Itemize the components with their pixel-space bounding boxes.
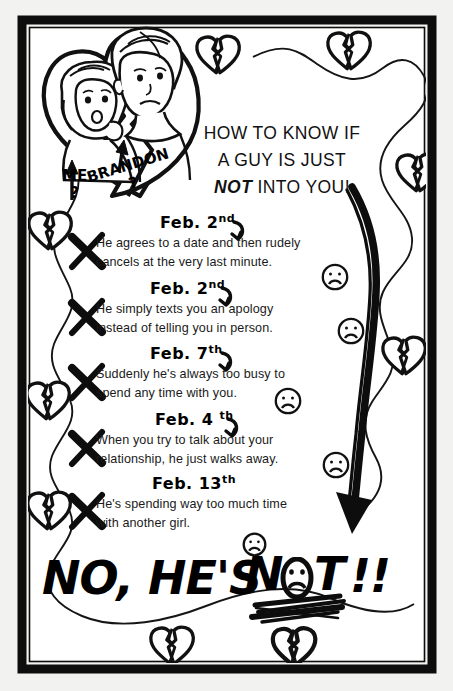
title-line-3-rest: INTO YOU!: [257, 177, 349, 197]
sign-text: He simply texts you an apology instead o…: [96, 300, 346, 338]
conclusion-headline: NO, HE'S N T !!: [42, 551, 422, 611]
poster-canvas: HOW TO KNOW IF A GUY IS JUST NOT INTO YO…: [0, 0, 453, 691]
conclusion-part-4: !!: [350, 549, 390, 603]
sign-date-text: Feb. 2: [150, 279, 208, 298]
sign-text-line: relationship, he just walks away.: [96, 450, 346, 469]
sign-date: Feb. 13th: [152, 473, 236, 493]
conclusion-part-3: T: [314, 547, 344, 601]
title-emphasis: NOT: [214, 177, 252, 197]
sign-item: When you try to talk about your relation…: [96, 431, 346, 469]
sign-item: He's spending way too much time with ano…: [96, 495, 346, 533]
sign-date-text: Feb. 13: [152, 474, 222, 493]
sign-text: He agrees to a date and then rudely canc…: [96, 234, 346, 272]
conclusion-part-1: NO, HE'S: [42, 551, 261, 605]
sign-date-suffix: th: [222, 473, 236, 486]
sign-date-suffix: th: [219, 409, 233, 422]
sign-item: Suddenly he's always too busy to spend a…: [96, 365, 346, 403]
label-me: ME ?: [62, 168, 87, 202]
sign-text-line: He's spending way too much time: [96, 495, 346, 514]
sign-date-text: Feb. 4: [155, 410, 219, 429]
sign-text: Suddenly he's always too busy to spend a…: [96, 365, 346, 403]
title-line-3: NOT INTO YOU!: [172, 174, 392, 201]
sign-item: He simply texts you an apology instead o…: [96, 300, 346, 338]
sign-text-line: He simply texts you an apology: [96, 300, 346, 319]
sign-text-line: When you try to talk about your: [96, 431, 346, 450]
sign-text-line: He agrees to a date and then rudely: [96, 234, 346, 253]
sign-item: He agrees to a date and then rudely canc…: [96, 234, 346, 272]
sign-text: When you try to talk about your relation…: [96, 431, 346, 469]
sign-date-text: Feb. 7: [150, 344, 208, 363]
conclusion-part-2: N: [245, 547, 283, 601]
page-title: HOW TO KNOW IF A GUY IS JUST NOT INTO YO…: [172, 120, 392, 201]
sign-date-text: Feb. 2: [160, 213, 218, 232]
sign-text-line: with another girl.: [96, 514, 346, 533]
sign-date: Feb. 4 th: [155, 409, 234, 429]
sign-date: Feb. 2nd: [160, 212, 235, 232]
title-line-2: A GUY IS JUST: [172, 147, 392, 174]
sign-text-line: Suddenly he's always too busy to: [96, 365, 346, 384]
sign-text-line: instead of telling you in person.: [96, 319, 346, 338]
sign-date-suffix: nd: [218, 212, 235, 225]
title-line-1: HOW TO KNOW IF: [172, 120, 392, 147]
sign-text: He's spending way too much time with ano…: [96, 495, 346, 533]
sign-text-line: spend any time with you.: [96, 384, 346, 403]
sad-face-o-icon: [280, 557, 314, 599]
label-me-mark: ?: [62, 185, 87, 202]
sign-date: Feb. 2nd: [150, 278, 225, 298]
sign-date-suffix: th: [208, 343, 222, 356]
label-me-text: ME: [62, 168, 87, 185]
sign-date-suffix: nd: [208, 278, 225, 291]
sign-date: Feb. 7th: [150, 343, 222, 363]
sign-text-line: cancels at the very last minute.: [96, 253, 346, 272]
